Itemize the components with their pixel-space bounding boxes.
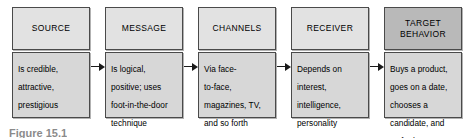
stage-message-header: MESSAGE — [105, 7, 183, 50]
stage-channels-body: Via face- to-face, magazines, TV, and so… — [198, 52, 276, 118]
stage-target-behavior-header: TARGET BEHAVIOR — [384, 7, 462, 50]
stage-source-header: SOURCE — [12, 7, 90, 50]
stage-message-body-text: Is logical, positive; uses foot-in-the-d… — [111, 64, 168, 128]
stage-receiver-body: Depends on interest, intelligence, perso… — [291, 52, 369, 118]
stage-source: SOURCE Is credible, attractive, prestigi… — [12, 7, 90, 118]
figure-caption: Figure 15.1 — [9, 128, 67, 138]
arrow-right-icon-channels-to-receiver — [277, 62, 291, 71]
stage-message-header-label: MESSAGE — [122, 23, 167, 34]
stage-channels-header: CHANNELS — [198, 7, 276, 50]
stage-source-body: Is credible, attractive, prestigious — [12, 52, 90, 118]
stage-target-behavior-body: Buys a product, goes on a date, chooses … — [384, 52, 462, 118]
persuasion-flow-diagram: SOURCE Is credible, attractive, prestigi… — [0, 0, 470, 138]
stage-source-body-text: Is credible, attractive, prestigious — [18, 64, 58, 110]
stage-channels: CHANNELS Via face- to-face, magazines, T… — [198, 7, 276, 118]
stage-receiver: RECEIVER Depends on interest, intelligen… — [291, 7, 369, 118]
stage-source-header-label: SOURCE — [32, 23, 70, 34]
stage-receiver-header: RECEIVER — [291, 7, 369, 50]
arrow-right-icon-receiver-to-target-behavior — [370, 62, 384, 71]
stage-target-behavior-header-label: TARGET BEHAVIOR — [400, 18, 446, 39]
stage-channels-body-text: Via face- to-face, magazines, TV, and so… — [204, 64, 261, 128]
stage-message: MESSAGE Is logical, positive; uses foot-… — [105, 7, 183, 118]
arrow-right-icon-source-to-message — [91, 62, 105, 71]
stage-message-body: Is logical, positive; uses foot-in-the-d… — [105, 52, 183, 118]
stage-channels-header-label: CHANNELS — [212, 23, 261, 34]
figure-caption-label: Figure 15.1 — [9, 128, 67, 138]
stage-target-behavior: TARGET BEHAVIOR Buys a product, goes on … — [384, 7, 462, 118]
arrow-right-icon-message-to-channels — [184, 62, 198, 71]
stage-target-behavior-body-text: Buys a product, goes on a date, chooses … — [390, 64, 448, 138]
stage-receiver-header-label: RECEIVER — [307, 23, 353, 34]
stage-receiver-body-text: Depends on interest, intelligence, perso… — [297, 64, 342, 128]
